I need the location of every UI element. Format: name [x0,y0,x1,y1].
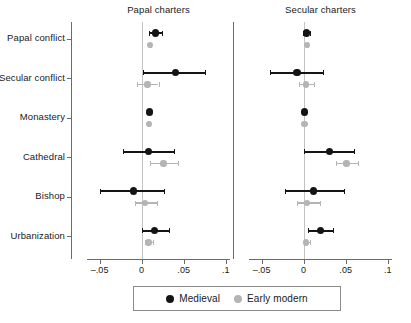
estimate-dot [304,42,310,48]
estimate-dot [152,29,159,36]
y-axis-tick [67,39,71,40]
x-axis-tick-label: .1 [206,265,246,275]
y-axis-tick [67,197,71,198]
legend-swatch-medieval-icon [166,295,174,303]
y-axis-tick [67,118,71,119]
x-axis-tick [100,260,101,264]
estimate-dot [303,239,309,245]
estimate-dot [301,108,308,115]
confidence-interval-cap [100,189,101,194]
x-axis-tick [262,260,263,264]
y-axis-label-secular-conflict: Secular conflict [0,72,65,83]
legend-item-early-modern: Early modern [234,293,308,304]
confidence-interval-cap [174,149,175,154]
confidence-interval-cap [297,201,298,206]
estimate-dot [144,81,150,87]
estimate-dot [145,239,151,245]
x-axis-tick [184,260,185,264]
confidence-interval-cap [123,149,124,154]
confidence-interval-cap [135,201,136,206]
estimate-dot [147,42,153,48]
estimate-dot [151,227,158,234]
confidence-interval-cap [137,82,138,87]
zero-reference-line [142,22,143,259]
confidence-interval-cap [169,228,170,233]
estimate-dot [310,187,317,194]
estimate-dot [146,108,153,115]
y-axis-tick [67,157,71,158]
chart-legend: MedievalEarly modern [133,286,341,311]
confidence-interval-cap [178,161,179,166]
x-axis-tick [226,260,227,264]
y-axis-label-papal-conflict: Papal conflict [7,32,65,43]
panel-divider-spine [233,22,234,259]
confidence-interval-cap [142,228,143,233]
y-axis-label-monastery: Monastery [20,111,65,122]
x-axis-tick-label: .05 [326,265,366,275]
confidence-interval-cap [164,189,165,194]
confidence-interval-cap [149,31,150,36]
estimate-dot [301,121,307,127]
confidence-interval-cap [344,189,345,194]
y-axis-tick [67,78,71,79]
estimate-dot [160,160,166,166]
x-axis-tick-label: –.05 [80,265,120,275]
estimate-dot [326,148,333,155]
y-axis-tick [67,236,71,237]
confidence-interval-cap [336,161,337,166]
confidence-interval-cap [320,201,321,206]
confidence-interval-cap [150,161,151,166]
coefficient-plot-figure: Papal conflictSecular conflictMonasteryC… [0,0,411,323]
estimate-dot [172,69,179,76]
confidence-interval-cap [310,31,311,36]
estimate-dot [142,200,148,206]
confidence-interval-cap [333,228,334,233]
x-axis-line-panel-1 [249,259,392,260]
confidence-interval-cap [205,70,206,75]
x-axis-tick-label: .05 [164,265,204,275]
confidence-interval-cap [285,189,286,194]
legend-item-medieval: Medieval [166,293,220,304]
confidence-interval-cap [157,201,158,206]
confidence-interval-cap [143,70,144,75]
confidence-interval-cap [159,82,160,87]
estimate-dot [146,121,152,127]
y-axis-label-bishop: Bishop [35,190,65,201]
confidence-interval-cap [310,240,311,245]
estimate-dot [145,148,152,155]
confidence-interval-cap [304,149,305,154]
panel-title-papal-charters: Papal charters [67,4,250,15]
confidence-interval-cap [354,149,355,154]
panel-title-secular-charters: Secular charters [229,4,411,15]
confidence-interval-cap [358,161,359,166]
legend-label: Early modern [247,293,308,304]
y-axis-spine [71,22,72,259]
x-axis-line-panel-0 [87,259,230,260]
x-axis-tick [142,260,143,264]
estimate-dot [304,200,310,206]
confidence-interval-cap [162,31,163,36]
estimate-dot [303,81,309,87]
estimate-dot [343,160,349,166]
estimate-dot [317,227,324,234]
confidence-interval-cap [270,70,271,75]
x-axis-tick [346,260,347,264]
y-axis-label-cathedral: Cathedral [23,151,65,162]
confidence-interval-cap [153,240,154,245]
legend-label: Medieval [179,293,220,304]
confidence-interval-cap [323,70,324,75]
estimate-dot [130,187,137,194]
x-axis-tick [388,260,389,264]
y-axis-label-urbanization: Urbanization [10,230,65,241]
x-axis-tick [304,260,305,264]
x-axis-tick-label: –.05 [242,265,282,275]
zero-reference-line [304,22,305,259]
estimate-dot [303,29,310,36]
x-axis-tick-label: 0 [284,265,324,275]
estimate-dot [293,69,300,76]
confidence-interval-cap [308,228,309,233]
confidence-interval-cap [299,82,300,87]
legend-swatch-early-modern-icon [234,295,242,303]
confidence-interval-cap [314,82,315,87]
x-axis-tick-label: 0 [122,265,162,275]
